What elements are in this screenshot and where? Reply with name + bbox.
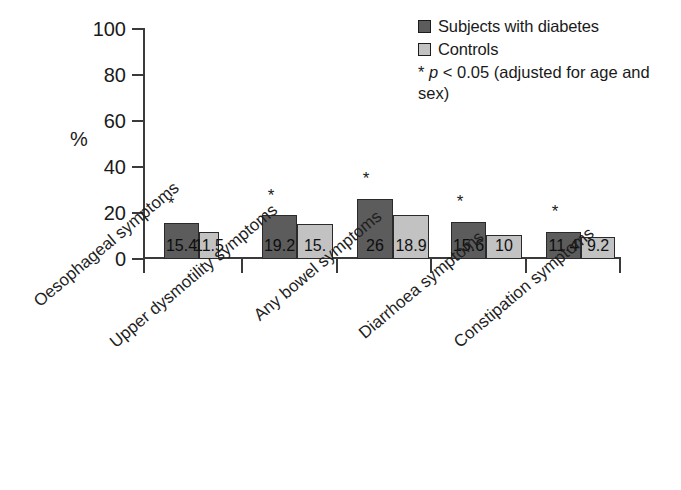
x-separator-1 [241,259,243,273]
x-separator-5 [619,259,621,273]
y-axis-label: % [70,129,88,149]
bar-group-diarrhoea: * 15.6 10 [430,28,525,259]
bar-value-diabetes-1: 19.2 [263,237,296,254]
bar-controls-2[interactable]: 18.9 [393,215,429,259]
y-tick-label-80: 80 [66,65,126,85]
significance-star-2: * [344,173,388,185]
y-tick-60 [132,120,143,122]
y-tick-label-60: 60 [66,111,126,131]
bar-group-oesophageal: * 15.4 11.5 [143,28,241,259]
bar-chart-figure: Subjects with diabetes Controls * p < 0.… [0,0,681,490]
y-tick-100 [132,28,143,30]
plot-area: * 15.4 11.5 * 19.2 15. * 26 18. [143,28,621,259]
y-tick-label-100: 100 [66,19,126,39]
bar-controls-3[interactable]: 10 [486,235,522,259]
bar-group-constipation: * 11.4 9.2 [525,28,621,259]
y-tick-0 [132,258,143,260]
y-tick-label-40: 40 [66,157,126,177]
y-tick-label-20: 20 [66,203,126,223]
x-separator-0 [143,259,145,273]
bar-value-controls-3: 10 [487,237,521,254]
y-tick-40 [132,166,143,168]
significance-star-1: * [249,190,293,202]
y-tick-80 [132,74,143,76]
significance-star-3: * [438,196,482,208]
significance-star-4: * [533,206,577,218]
bar-value-controls-2: 18.9 [394,237,428,254]
